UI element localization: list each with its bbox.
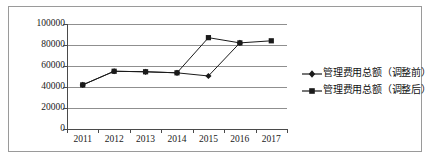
x-axis-tick-mark [98,129,99,133]
legend-item[interactable]: 管理费用总额（调整前） [301,63,421,80]
data-point-square [112,69,117,74]
x-axis-tick-label: 2013 [136,135,155,145]
diamond-marker-icon [301,66,323,78]
chart-legend: 管理费用总额（调整前） 管理费用总额（调整后） [301,63,421,97]
y-axis-tick-mark [63,66,67,67]
y-axis-tick-mark [63,24,67,25]
x-axis-tick-mark [256,129,257,133]
x-axis-tick-label: 2011 [73,135,92,145]
x-axis-tick-label: 2015 [199,135,218,145]
y-axis-tick-label: 80000 [41,40,65,50]
x-axis-tick-label: 2017 [262,135,281,145]
square-marker-icon [301,83,323,95]
series-line [83,43,240,85]
plot-region: 020000400006000080000100000 201120122013… [9,7,299,153]
y-axis-tick-labels: 020000400006000080000100000 [13,7,65,153]
data-point-square [174,70,179,75]
series-line [83,38,272,85]
y-axis-tick-label: 100000 [37,19,66,29]
x-axis-tick-label: 2016 [230,135,249,145]
x-axis-tick-label: 2012 [105,135,124,145]
x-axis-tick-label: 2014 [168,135,187,145]
data-point-square [269,38,274,43]
y-axis-tick-mark [63,87,67,88]
y-axis-tick-label: 20000 [41,103,65,113]
y-axis-tick-mark [63,108,67,109]
data-point-square [80,82,85,87]
x-axis-tick-mark [193,129,194,133]
x-axis-tick-mark [130,129,131,133]
data-point-square [237,40,242,45]
legend-item-label: 管理费用总额（调整前） [323,64,431,79]
legend-item[interactable]: 管理费用总额（调整后） [301,80,421,97]
x-axis-tick-mark [287,129,288,133]
x-axis-tick-mark [161,129,162,133]
y-axis-tick-mark [63,45,67,46]
x-axis-tick-mark [67,129,68,133]
data-point-square [143,69,148,74]
chart-frame: 020000400006000080000100000 201120122013… [8,6,422,152]
legend-item-label: 管理费用总额（调整后） [323,81,431,96]
x-axis-tick-mark [224,129,225,133]
series-layer [67,24,287,129]
y-axis-tick-label: 40000 [41,82,65,92]
data-point-square [206,35,211,40]
y-axis-tick-label: 60000 [41,61,65,71]
